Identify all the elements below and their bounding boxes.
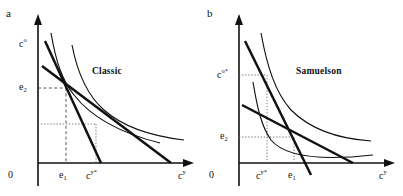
panel-title-classic: Classic: [92, 67, 122, 77]
x-tick-e1-a: e1: [59, 170, 67, 180]
budget-line-flat-a: [42, 66, 171, 163]
budget-line-steep-b: [245, 41, 311, 175]
x-axis-label-a: cy: [178, 170, 186, 181]
indifference-curve-outer-a: [72, 45, 184, 140]
y-tick-co-star-b: co*: [217, 69, 228, 80]
panel-b-plot: [201, 0, 402, 196]
x-tick-cy-star-a: cy*: [86, 170, 97, 181]
x-axis-label-b: cy: [379, 170, 387, 181]
origin-label-a: 0: [8, 170, 13, 180]
x-tick-cy-star-b: cy*: [256, 170, 267, 181]
y-tick-c-old-a: co: [19, 38, 27, 49]
panel-b-samuelson: b Samuelson co* e2 0 cy* e1 cy: [201, 0, 402, 196]
panel-a-plot: [0, 0, 201, 196]
y-axis-b: [235, 14, 243, 186]
panel-letter-b: b: [207, 8, 213, 19]
y-tick-e2-a: e2: [19, 82, 27, 92]
panel-letter-a: a: [6, 8, 11, 19]
panel-title-samuelson: Samuelson: [296, 67, 342, 77]
origin-label-b: 0: [209, 170, 214, 180]
x-tick-e1-b: e1: [288, 170, 296, 180]
panel-a-classic: a Classic co e2 0 e1 cy* cy: [0, 0, 201, 196]
x-axis-b: [239, 159, 395, 167]
y-tick-e2-b: e2: [220, 131, 228, 141]
figure-container: a Classic co e2 0 e1 cy* cy: [0, 0, 403, 196]
y-axis-a: [34, 14, 42, 186]
budget-line-steep-a: [45, 41, 101, 163]
